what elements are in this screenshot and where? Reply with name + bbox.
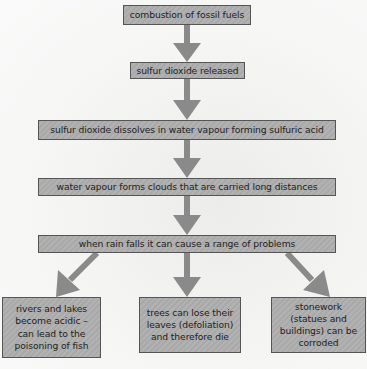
arrow-down-icon [173, 43, 201, 62]
arrow-down-icon [173, 215, 201, 235]
step-combustion: combustion of fossil fuels [123, 5, 251, 25]
step-rain: when rain falls it can cause a range of … [38, 235, 336, 253]
step-so2-dissolves: sulfur dioxide dissolves in water vapour… [38, 120, 336, 140]
effect-rivers-lakes: rivers and lakes become acidic – can lea… [2, 297, 101, 358]
arrow-down-icon [173, 158, 201, 178]
arrow-shaft [184, 24, 190, 45]
step-so2-released: sulfur dioxide released [130, 62, 245, 79]
step-clouds: water vapour forms clouds that are carri… [38, 178, 336, 196]
arrow-down-icon [173, 277, 201, 297]
arrow-down-icon [173, 100, 201, 120]
effect-stonework: stonework (statues and buildings) can be… [271, 297, 366, 353]
effect-trees: trees can lose their leaves (defoliation… [139, 297, 241, 353]
